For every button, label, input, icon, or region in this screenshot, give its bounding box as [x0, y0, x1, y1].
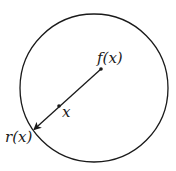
point-x-dot [57, 104, 61, 108]
label-r-of-x: r(x) [5, 128, 32, 146]
diagram-canvas: f(x) x r(x) [0, 0, 176, 171]
disk-boundary-circle [20, 14, 168, 162]
label-x: x [62, 103, 71, 121]
label-f-of-x: f(x) [96, 49, 123, 67]
point-f-dot [99, 67, 103, 71]
